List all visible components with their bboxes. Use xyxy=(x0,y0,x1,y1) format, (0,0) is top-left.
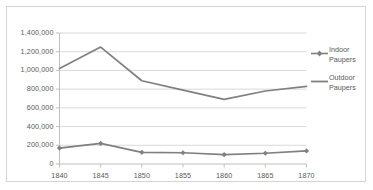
y-tick-label: 600,000 xyxy=(7,103,54,112)
data-point-marker xyxy=(263,151,268,156)
data-point-marker xyxy=(304,148,309,153)
data-point-marker xyxy=(222,152,227,157)
chart-container: 0200,000400,000600,000800,0001,000,0001,… xyxy=(6,6,366,182)
legend-label-indoor-paupers: Indoor Paupers xyxy=(329,45,371,64)
y-tick-label: 400,000 xyxy=(7,122,54,131)
x-tick-label: 1840 xyxy=(40,171,80,180)
data-point-marker xyxy=(180,150,185,155)
legend-label-outdoor-line2: Paupers xyxy=(329,83,356,92)
x-tick-label: 1860 xyxy=(204,171,244,180)
series-line-outdoor-paupers xyxy=(60,47,307,99)
legend-marker-outdoor-paupers xyxy=(311,77,328,86)
legend-label-outdoor-line1: Outdoor xyxy=(329,73,355,82)
chart-legend: Indoor Paupers Outdoor Paupers xyxy=(311,45,371,101)
y-tick-label: 1,200,000 xyxy=(7,47,54,56)
x-tick-label: 1855 xyxy=(163,171,203,180)
legend-entry-outdoor-paupers[interactable]: Outdoor Paupers xyxy=(311,73,371,92)
data-point-marker xyxy=(139,150,144,155)
x-tick-label: 1850 xyxy=(122,171,162,180)
y-tick-label: 0 xyxy=(7,159,54,168)
y-tick-label: 800,000 xyxy=(7,84,54,93)
y-tick-label: 1,000,000 xyxy=(7,65,54,74)
data-point-marker xyxy=(57,145,62,150)
legend-label-indoor-line1: Indoor xyxy=(329,45,349,54)
x-tick-label: 1865 xyxy=(245,171,285,180)
legend-entry-indoor-paupers[interactable]: Indoor Paupers xyxy=(311,45,371,64)
legend-marker-indoor-paupers xyxy=(311,49,328,58)
y-tick-label: 200,000 xyxy=(7,140,54,149)
x-tick-label: 1870 xyxy=(287,171,327,180)
x-tick-label: 1845 xyxy=(81,171,121,180)
legend-label-indoor-line2: Paupers xyxy=(329,55,356,64)
legend-label-outdoor-paupers: Outdoor Paupers xyxy=(329,73,371,92)
y-tick-label: 1,400,000 xyxy=(7,28,54,37)
